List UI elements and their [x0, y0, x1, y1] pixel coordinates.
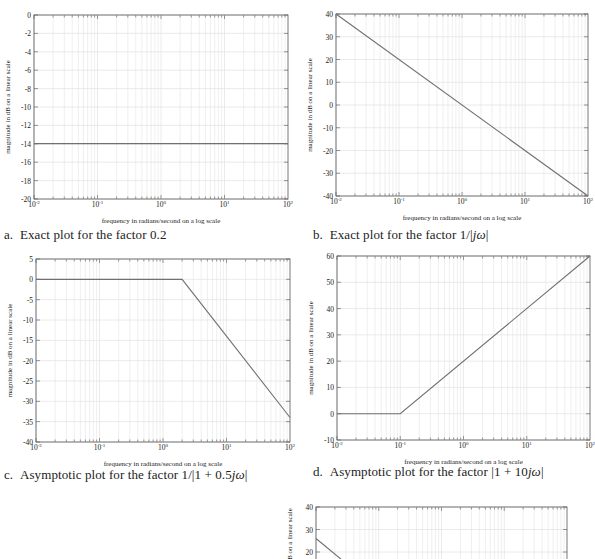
y-tick-label: 60 [327, 252, 335, 261]
chart-e-partial: 403020magnitude in dB on a linear scale [280, 495, 595, 559]
chart-b: 403020100-10-20-30-4010-210-1100101102fr… [297, 0, 595, 250]
x-tick-label: 10-1 [92, 200, 104, 209]
x-tick-label: 100 [459, 441, 470, 450]
caption-d: d. Asymptotic plot for the factor |1 + 1… [313, 464, 544, 480]
chart-b-plot: 403020100-10-20-30-4010-210-1100101102fr… [297, 0, 595, 250]
plot-area: 403020magnitude in dB on a linear scale [286, 503, 567, 559]
y-tick-label: -35 [23, 418, 33, 427]
y-tick-label: 50 [327, 278, 335, 287]
y-tick-label: 30 [306, 526, 314, 535]
x-tick-label: 102 [283, 200, 294, 209]
chart-a-plot: 0-2-4-6-8-10-12-14-16-18-2010-210-110010… [0, 0, 297, 250]
x-tick-label: 100 [158, 443, 169, 452]
chart-e-plot: 403020magnitude in dB on a linear scale [280, 495, 595, 559]
y-tick-label: -10 [323, 124, 333, 133]
plot-area: 50-5-10-15-20-25-30-35-4010-210-11001011… [6, 255, 296, 468]
y-tick-label: -5 [27, 296, 33, 305]
y-axis-label: magnitude in dB on a linear scale [4, 60, 12, 154]
y-tick-label: -6 [25, 66, 31, 75]
x-tick-label: 101 [520, 197, 531, 206]
y-tick-label: -2 [25, 29, 31, 38]
data-series-line [316, 539, 346, 559]
y-tick-label: -20 [323, 147, 333, 156]
y-tick-label: -30 [323, 169, 333, 178]
x-tick-label: 10-2 [28, 200, 40, 209]
x-tick-label: 101 [522, 441, 533, 450]
chart-d: 6050403020100-1010-210-1100101102frequen… [297, 250, 595, 490]
y-tick-label: -4 [25, 48, 31, 57]
y-axis-label: magnitude in dB on a linear scale [306, 58, 314, 152]
y-tick-label: -12 [21, 121, 31, 130]
x-tick-label: 102 [585, 441, 595, 450]
y-tick-label: 40 [326, 10, 334, 19]
y-axis-label: magnitude in dB on a linear scale [307, 301, 315, 395]
y-tick-label: 0 [27, 11, 31, 20]
y-tick-label: 5 [29, 255, 33, 264]
y-tick-label: -16 [21, 158, 31, 167]
y-tick-label: 20 [326, 56, 334, 65]
plot-area: 403020100-10-20-30-4010-210-1100101102fr… [306, 10, 594, 222]
y-tick-label: -8 [25, 85, 31, 94]
y-tick-label: 10 [327, 383, 335, 392]
y-tick-label: -10 [21, 103, 31, 112]
caption-b: b. Exact plot for the factor 1/|jω| [313, 227, 488, 243]
y-tick-label: 40 [327, 305, 335, 314]
x-tick-label: 10-2 [30, 443, 42, 452]
chart-c-plot: 50-5-10-15-20-25-30-35-4010-210-11001011… [0, 250, 297, 490]
y-tick-label: 40 [306, 503, 314, 512]
x-axis-label: frequency in radians/second on a log sca… [102, 217, 221, 225]
chart-c: 50-5-10-15-20-25-30-35-4010-210-11001011… [0, 250, 297, 490]
x-tick-label: 10-2 [331, 441, 343, 450]
y-tick-label: 20 [306, 548, 314, 557]
x-tick-label: 101 [222, 443, 233, 452]
x-tick-label: 101 [220, 200, 231, 209]
x-tick-label: 102 [285, 443, 296, 452]
plot-area: 6050403020100-1010-210-1100101102frequen… [307, 252, 595, 466]
y-tick-label: -20 [23, 357, 33, 366]
y-tick-label: -14 [21, 140, 31, 149]
x-tick-label: 100 [457, 197, 468, 206]
y-tick-label: 20 [327, 357, 335, 366]
x-tick-label: 100 [156, 200, 167, 209]
y-axis-label: magnitude in dB on a linear scale [286, 508, 294, 559]
chart-a: 0-2-4-6-8-10-12-14-16-18-2010-210-110010… [0, 0, 297, 250]
x-axis-label: frequency in radians/second on a log sca… [403, 214, 522, 222]
y-tick-label: 10 [326, 78, 334, 87]
y-tick-label: -15 [23, 336, 33, 345]
y-tick-label: -30 [23, 397, 33, 406]
x-tick-label: 102 [583, 197, 594, 206]
x-tick-label: 10-2 [330, 197, 342, 206]
y-tick-label: 0 [329, 101, 333, 110]
x-tick-label: 10-1 [394, 441, 406, 450]
y-tick-label: -25 [23, 377, 33, 386]
plot-area: 0-2-4-6-8-10-12-14-16-18-2010-210-110010… [4, 11, 294, 225]
x-tick-label: 10-1 [393, 197, 405, 206]
y-tick-label: -10 [23, 316, 33, 325]
x-tick-label: 10-1 [94, 443, 106, 452]
chart-d-plot: 6050403020100-1010-210-1100101102frequen… [297, 250, 595, 490]
y-tick-label: 0 [330, 410, 334, 419]
y-tick-label: 30 [326, 33, 334, 42]
caption-c: c. Asymptotic plot for the factor 1/|1 +… [4, 467, 248, 483]
y-tick-label: 0 [29, 275, 33, 284]
y-tick-label: 30 [327, 331, 335, 340]
y-axis-label: magnitude in dB on a linear scale [6, 304, 14, 398]
caption-a: a. Exact plot for the factor 0.2 [4, 227, 167, 243]
y-tick-label: -18 [21, 177, 31, 186]
